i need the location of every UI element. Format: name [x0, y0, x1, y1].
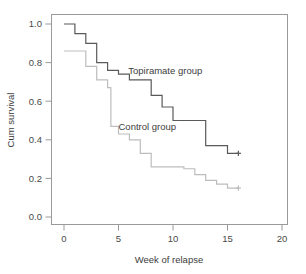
series-label-topiramate: Topiramate group	[128, 65, 202, 76]
y-tick-label: 0.8	[29, 57, 42, 68]
x-tick-label: 15	[222, 233, 233, 244]
y-tick-label: 0.4	[29, 134, 42, 145]
survival-plot: 05101520 0.00.20.40.60.81.0 Topiramate g…	[0, 0, 306, 274]
censor-mark	[236, 185, 241, 190]
x-tick-label: 10	[168, 233, 179, 244]
x-axis-ticks: 05101520	[61, 225, 287, 245]
plot-frame	[52, 15, 288, 225]
series-layer	[64, 24, 238, 188]
y-tick-label: 0.2	[29, 173, 42, 184]
series-label-control: Control group	[119, 121, 177, 132]
x-tick-label: 20	[277, 233, 288, 244]
series-step-line-topiramate	[64, 24, 238, 153]
y-axis-ticks: 0.00.20.40.60.81.0	[29, 18, 52, 222]
censor-marks-layer	[236, 151, 241, 191]
y-tick-label: 1.0	[29, 18, 42, 29]
y-tick-label: 0.6	[29, 96, 42, 107]
y-tick-label: 0.0	[29, 211, 42, 222]
censor-mark	[236, 151, 241, 156]
x-tick-label: 0	[61, 233, 66, 244]
y-axis-title: Cum survival	[5, 93, 16, 148]
kaplan-meier-figure: 05101520 0.00.20.40.60.81.0 Topiramate g…	[0, 0, 306, 274]
x-axis-title: Week of relapse	[135, 254, 203, 265]
x-tick-label: 5	[116, 233, 121, 244]
